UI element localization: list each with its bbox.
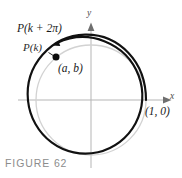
point-marker-p-k: [53, 54, 60, 61]
wrapping-spiral-arc: [28, 35, 146, 154]
label-point-one-zero: (1, 0): [145, 106, 170, 118]
label-axis-y: y: [87, 9, 91, 19]
figure-62-container: P(k + 2π) P(k) (a, b) (1, 0) x y FIGURE …: [0, 0, 182, 178]
label-p-k-plus-2pi: P(k + 2π): [17, 23, 62, 35]
label-axis-x: x: [170, 92, 174, 102]
label-point-coordinates-a-b: (a, b): [58, 63, 83, 75]
y-axis-arrowhead: [88, 23, 95, 32]
label-p-k: P(k): [23, 42, 42, 53]
figure-caption: FIGURE 62: [5, 157, 67, 169]
